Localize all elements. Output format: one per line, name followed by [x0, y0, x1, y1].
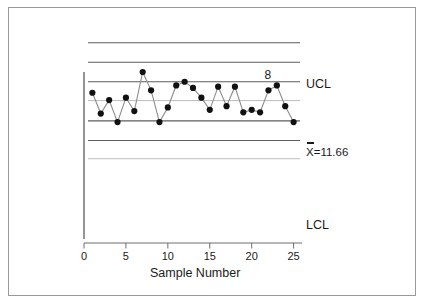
data-point-8: [148, 87, 154, 93]
data-point-9: [156, 119, 162, 125]
x-tick-label-25: 25: [287, 250, 299, 262]
x-tick-label-15: 15: [204, 250, 216, 262]
data-point-15: [207, 107, 213, 113]
data-point-3: [106, 97, 112, 103]
data-point-22: [265, 87, 271, 93]
x-axis-title: Sample Number: [150, 267, 240, 280]
reference-lines-group: [88, 43, 300, 159]
data-point-19: [240, 109, 246, 115]
data-series-line: [92, 72, 293, 122]
data-point-6: [131, 108, 137, 114]
x-tick-label-5: 5: [123, 250, 129, 262]
data-point-1: [89, 90, 95, 96]
data-point-2: [98, 110, 104, 116]
data-point-4: [114, 119, 120, 125]
data-point-25: [291, 119, 297, 125]
x-axis-ticks: [84, 243, 294, 249]
data-point-7: [140, 69, 146, 75]
data-point-17: [223, 103, 229, 109]
center-line-label: X=11.66: [306, 147, 348, 159]
data-point-21: [257, 109, 263, 115]
ucl-label: UCL: [306, 78, 331, 91]
data-point-23: [274, 82, 280, 88]
data-point-5: [123, 95, 129, 101]
x-tick-label-0: 0: [81, 250, 87, 262]
data-point-10: [165, 104, 171, 110]
data-point-14: [198, 95, 204, 101]
data-point-18: [232, 84, 238, 90]
data-point-20: [249, 107, 255, 113]
data-point-16: [215, 84, 221, 90]
screenshot-canvas: UCL LCL X=11.66 8 Sample Number 05101520…: [0, 0, 425, 305]
data-point-11: [173, 82, 179, 88]
x-double-bar-overline: [307, 142, 314, 144]
data-point-24: [282, 103, 288, 109]
rule-violation-annotation: 8: [264, 69, 271, 81]
x-tick-label-20: 20: [246, 250, 258, 262]
axis-group: [84, 72, 302, 249]
data-point-13: [190, 85, 196, 91]
data-point-12: [182, 79, 188, 85]
lcl-label: LCL: [306, 219, 329, 232]
x-tick-label-10: 10: [162, 250, 174, 262]
